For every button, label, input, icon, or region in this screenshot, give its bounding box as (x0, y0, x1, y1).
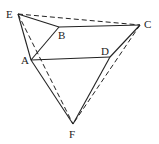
segment-BC (59, 25, 140, 27)
label-E: E (6, 8, 13, 20)
label-A: A (21, 54, 29, 66)
geometry-diagram: E B C A D F (0, 0, 159, 144)
label-C: C (144, 18, 151, 30)
segment-DC (110, 25, 140, 57)
label-B: B (58, 29, 65, 41)
segment-DF (73, 57, 110, 124)
segment-AD (31, 57, 110, 60)
segment-AB (31, 27, 59, 60)
label-F: F (69, 128, 75, 140)
label-D: D (101, 45, 109, 57)
segment-AF (31, 60, 73, 124)
dashed-segment-CF (73, 25, 140, 124)
